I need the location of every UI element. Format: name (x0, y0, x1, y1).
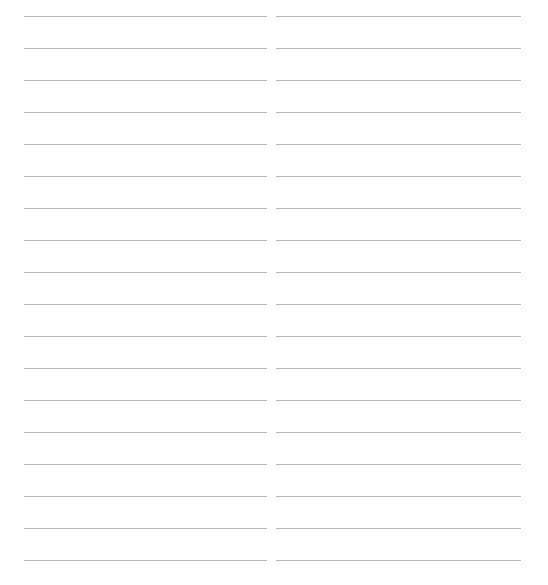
ruled-line (24, 336, 267, 337)
ruled-line (276, 48, 521, 49)
ruled-line (24, 80, 267, 81)
ruled-line (276, 528, 521, 529)
ruled-line (24, 272, 267, 273)
ruled-line (276, 432, 521, 433)
ruled-line (24, 144, 267, 145)
ruled-line (276, 560, 521, 561)
ruled-line (276, 144, 521, 145)
ruled-line (276, 464, 521, 465)
ruled-line (276, 304, 521, 305)
ruled-line (24, 112, 267, 113)
ruled-line (24, 528, 267, 529)
ruled-line (276, 112, 521, 113)
ruled-line (276, 208, 521, 209)
ruled-line (276, 400, 521, 401)
ruled-line (24, 304, 267, 305)
ruled-line (24, 464, 267, 465)
ruled-line (24, 400, 267, 401)
ruled-line (276, 368, 521, 369)
ruled-line (276, 240, 521, 241)
ruled-line (24, 176, 267, 177)
ruled-line (276, 16, 521, 17)
ruled-line (276, 336, 521, 337)
ruled-line (24, 16, 267, 17)
ruled-line (24, 496, 267, 497)
ruled-line (276, 496, 521, 497)
ruled-line (276, 80, 521, 81)
ruled-line (24, 432, 267, 433)
ruled-line (24, 560, 267, 561)
ruled-line (276, 272, 521, 273)
ruled-line (24, 208, 267, 209)
ruled-line (276, 176, 521, 177)
ruled-line (24, 368, 267, 369)
ruled-line (24, 48, 267, 49)
ruled-line (24, 240, 267, 241)
